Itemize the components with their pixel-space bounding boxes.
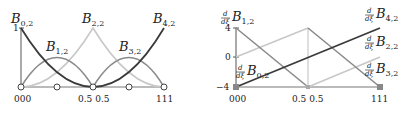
left-x-tick-end: 111 — [156, 94, 173, 104]
svg-text:d: d — [238, 64, 243, 72]
derivatives-plot: 4 0 −4 000 0.5 0.5 111 d dξ B1,2 — [216, 6, 398, 104]
svg-text:B4,2: B4,2 — [375, 6, 398, 23]
knot-marker — [233, 84, 239, 90]
knot-marker — [161, 84, 167, 90]
svg-text:dξ: dξ — [365, 70, 374, 78]
knot-marker — [377, 84, 383, 90]
label-d22: d dξ B2,2 — [365, 34, 398, 51]
svg-text:d: d — [223, 10, 228, 18]
basis-functions-plot: 1 000 0.5 0.5 111 B0,2 B1,2 B2,2 B3,2 B4… — [10, 11, 175, 104]
label-d12: d dξ B1,2 — [221, 9, 254, 26]
label-d32: d dξ B3,2 — [365, 61, 398, 78]
svg-text:dξ: dξ — [236, 72, 245, 80]
right-x-tick-end: 111 — [371, 94, 388, 104]
left-x-tick-mid: 0.5 0.5 — [78, 94, 110, 104]
svg-text:B2,2: B2,2 — [375, 34, 398, 51]
label-b42: B4,2 — [152, 11, 175, 28]
knot-marker — [90, 84, 96, 90]
right-y-tick-label-0: 0 — [225, 52, 231, 62]
deriv-b12 — [236, 28, 308, 87]
knot-marker — [306, 85, 310, 89]
knot-marker — [18, 84, 24, 90]
label-b12: B1,2 — [45, 39, 68, 56]
label-d42: d dξ B4,2 — [365, 6, 398, 23]
chart-canvas: 1 000 0.5 0.5 111 B0,2 B1,2 B2,2 B3,2 B4… — [0, 0, 405, 114]
svg-text:dξ: dξ — [365, 15, 374, 23]
svg-text:dξ: dξ — [365, 43, 374, 51]
label-b22: B2,2 — [81, 11, 104, 28]
label-b32: B3,2 — [118, 39, 141, 56]
left-x-tick-start: 000 — [14, 94, 31, 104]
svg-text:B0,2: B0,2 — [246, 63, 269, 80]
right-x-tick-mid: 0.5 0.5 — [292, 94, 324, 104]
node-marker — [54, 84, 60, 90]
node-marker — [126, 84, 132, 90]
svg-text:d: d — [367, 7, 372, 15]
svg-text:d: d — [367, 62, 372, 70]
label-d02: d dξ B0,2 — [236, 63, 269, 80]
svg-text:B1,2: B1,2 — [231, 9, 254, 26]
svg-text:dξ: dξ — [221, 18, 230, 26]
svg-text:B3,2: B3,2 — [375, 61, 398, 78]
right-y-tick-label-neg4: −4 — [216, 82, 230, 92]
deriv-b22-seg1 — [236, 28, 308, 57]
right-x-tick-start: 000 — [229, 94, 246, 104]
label-b02: B0,2 — [10, 11, 33, 28]
svg-text:d: d — [367, 35, 372, 43]
